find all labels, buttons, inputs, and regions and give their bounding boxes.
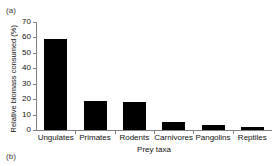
x-axis-title: Prey taxa bbox=[36, 145, 272, 155]
y-tick-40: 40 bbox=[0, 68, 36, 69]
y-tick-70: 70 bbox=[0, 22, 36, 23]
y-tick-label: 0 bbox=[27, 125, 31, 134]
x-category-label-ungulates: Ungulates bbox=[36, 133, 75, 143]
bar-rodents bbox=[123, 102, 146, 130]
y-tick-label: 50 bbox=[22, 48, 31, 57]
y-tick-label: 60 bbox=[22, 32, 31, 41]
y-tick-label: 40 bbox=[22, 63, 31, 72]
panel-label-b: (b) bbox=[6, 153, 16, 161]
bar-carnivores bbox=[162, 122, 185, 130]
x-category-label-primates: Primates bbox=[75, 133, 114, 143]
y-tick-50: 50 bbox=[0, 53, 36, 54]
y-tick-20: 20 bbox=[0, 99, 36, 100]
plot-area bbox=[36, 22, 272, 130]
bar-reptiles bbox=[241, 127, 264, 130]
y-tick-60: 60 bbox=[0, 37, 36, 38]
bar-primates bbox=[84, 101, 107, 130]
x-category-label-carnivores: Carnivores bbox=[154, 133, 193, 143]
y-tick-label: 30 bbox=[22, 79, 31, 88]
y-tick-label: 10 bbox=[22, 110, 31, 119]
x-category-label-reptiles: Reptiles bbox=[233, 133, 272, 143]
y-tick-label: 70 bbox=[22, 17, 31, 26]
x-category-label-pangolins: Pangolins bbox=[193, 133, 232, 143]
y-tick-10: 10 bbox=[0, 115, 36, 116]
y-tick-mark bbox=[33, 130, 36, 131]
y-tick-0: 0 bbox=[0, 130, 36, 131]
figure-panel-a: (a) (b) Relative biomass consumed (%) 01… bbox=[0, 0, 274, 166]
bar-pangolins bbox=[202, 125, 225, 130]
y-tick-label: 20 bbox=[22, 94, 31, 103]
y-tick-30: 30 bbox=[0, 84, 36, 85]
bar-ungulates bbox=[44, 39, 67, 130]
panel-label-a: (a) bbox=[6, 7, 16, 15]
x-category-label-rodents: Rodents bbox=[115, 133, 154, 143]
